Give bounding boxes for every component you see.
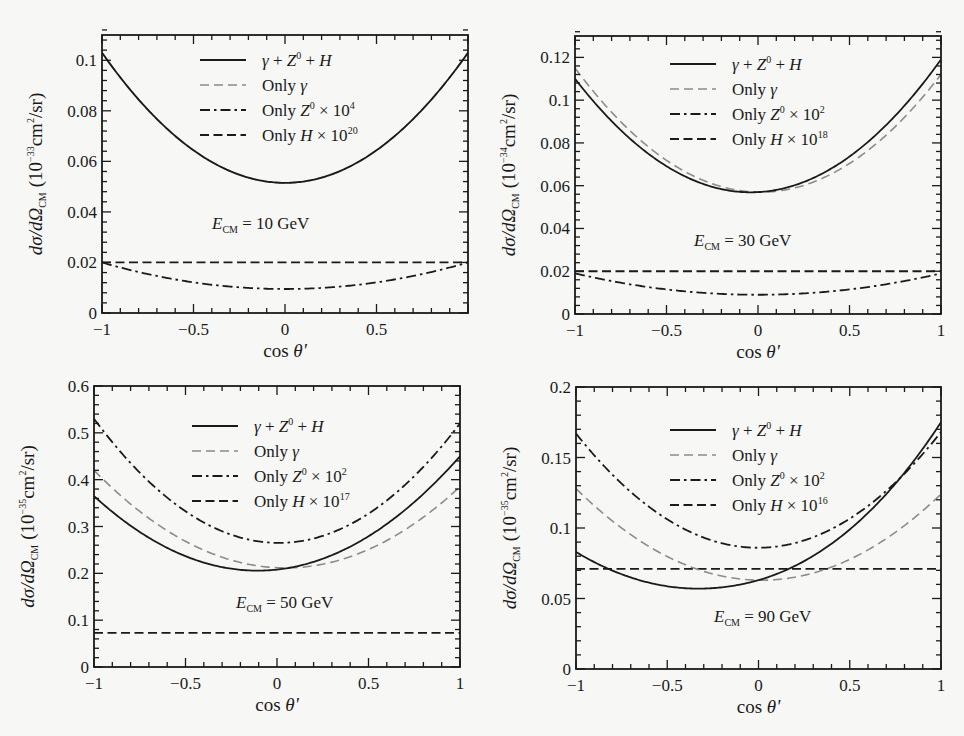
legend-label: Only H × 1017 bbox=[254, 491, 350, 511]
panel-50gev: −1−0.500.5100.10.20.30.40.50.6cos θ'dσ/d… bbox=[17, 377, 464, 715]
figure-canvas: −1−0.500.500.020.040.060.080.1cos θ'dσ/d… bbox=[0, 0, 964, 736]
legend-label: Only H × 1018 bbox=[732, 129, 828, 149]
x-tick-label: 0 bbox=[754, 321, 763, 340]
legend-label: Only H × 1020 bbox=[262, 125, 358, 145]
y-tick-label: 0.06 bbox=[540, 177, 570, 196]
x-tick-label: 0.5 bbox=[358, 674, 379, 693]
energy-annotation: ECM = 90 GeV bbox=[713, 607, 812, 628]
legend-label: Only γ bbox=[262, 76, 308, 95]
y-tick-label: 0 bbox=[81, 658, 90, 677]
legend-label: Only γ bbox=[732, 80, 778, 99]
legend: γ + Z0 + HOnly γOnly Z0 × 102Only H × 10… bbox=[670, 420, 828, 515]
y-tick-label: 0.04 bbox=[67, 203, 97, 222]
x-tick-label: −0.5 bbox=[178, 320, 209, 339]
y-tick-label: 0 bbox=[562, 305, 571, 324]
x-axis-title: cos θ' bbox=[255, 694, 299, 715]
legend-label: Only Z0 × 102 bbox=[254, 466, 347, 486]
y-tick-label: 0.3 bbox=[68, 518, 89, 537]
y-tick-label: 0.02 bbox=[540, 262, 570, 281]
legend-label: Only γ bbox=[732, 446, 778, 465]
panel-30gev: −1−0.500.5100.020.040.060.080.10.12cos θ… bbox=[498, 32, 945, 362]
y-tick-label: 0.08 bbox=[540, 134, 570, 153]
y-tick-label: 0.1 bbox=[549, 91, 570, 110]
y-tick-label: 0.08 bbox=[67, 102, 97, 121]
y-axis-title: dσ/dΩCM(10−34cm2/sr) bbox=[498, 94, 521, 256]
x-tick-label: −0.5 bbox=[651, 321, 682, 340]
y-tick-label: 0.04 bbox=[540, 219, 570, 238]
legend-label: γ + Z0 + H bbox=[262, 50, 333, 70]
legend-label: γ + Z0 + H bbox=[254, 416, 325, 436]
y-tick-label: 0.12 bbox=[540, 48, 570, 67]
panel-10gev: −1−0.500.500.020.040.060.080.1cos θ'dσ/d… bbox=[25, 30, 468, 361]
y-tick-label: 0.1 bbox=[550, 519, 571, 538]
series-line-dash-dot bbox=[102, 262, 468, 289]
legend-label: Only Z0 × 102 bbox=[732, 104, 825, 124]
y-tick-label: 0.6 bbox=[68, 377, 89, 396]
legend-label: γ + Z0 + H bbox=[732, 420, 803, 440]
legend: γ + Z0 + HOnly γOnly Z0 × 102Only H × 10… bbox=[670, 54, 828, 149]
y-axis-title: dσ/dΩCM(10−35cm2/sr) bbox=[17, 445, 40, 607]
y-axis-title: dσ/dΩCM(10−35cm2/sr) bbox=[499, 447, 522, 609]
energy-annotation: ECM = 30 GeV bbox=[693, 231, 792, 252]
panel-90gev: −1−0.500.5100.050.10.150.2cos θ'dσ/dΩCM(… bbox=[499, 378, 945, 717]
energy-annotation: ECM = 50 GeV bbox=[235, 593, 334, 614]
x-tick-label: 0.5 bbox=[839, 676, 860, 695]
axes-frame bbox=[575, 36, 941, 314]
y-tick-label: 0.1 bbox=[68, 611, 89, 630]
energy-annotation: ECM = 10 GeV bbox=[211, 214, 310, 235]
x-tick-label: −0.5 bbox=[652, 676, 683, 695]
x-tick-label: 0 bbox=[281, 320, 290, 339]
legend-label: Only H × 1016 bbox=[732, 495, 828, 515]
legend-label: Only Z0 × 102 bbox=[732, 470, 825, 490]
legend-label: Only γ bbox=[254, 442, 300, 461]
y-tick-label: 0.1 bbox=[76, 51, 97, 70]
x-tick-label: 0 bbox=[754, 676, 763, 695]
x-tick-label: 0.5 bbox=[839, 321, 860, 340]
y-tick-label: 0.02 bbox=[67, 253, 97, 272]
x-axis-title: cos θ' bbox=[737, 696, 781, 717]
x-tick-label: −0.5 bbox=[170, 674, 201, 693]
y-tick-label: 0.2 bbox=[550, 378, 571, 397]
legend: γ + Z0 + HOnly γOnly Z0 × 104Only H × 10… bbox=[200, 50, 358, 145]
y-tick-label: 0 bbox=[89, 304, 98, 323]
y-tick-label: 0 bbox=[563, 660, 572, 679]
x-tick-label: 0 bbox=[273, 674, 282, 693]
legend-label: Only Z0 × 104 bbox=[262, 100, 355, 120]
y-tick-label: 0.2 bbox=[68, 564, 89, 583]
y-tick-label: 0.5 bbox=[68, 424, 89, 443]
y-tick-label: 0.06 bbox=[67, 152, 97, 171]
x-tick-label: 1 bbox=[456, 674, 465, 693]
x-axis-title: cos θ' bbox=[263, 340, 307, 361]
y-tick-label: 0.15 bbox=[541, 449, 571, 468]
legend: γ + Z0 + HOnly γOnly Z0 × 102Only H × 10… bbox=[192, 416, 350, 511]
y-tick-label: 0.4 bbox=[68, 471, 90, 490]
x-tick-label: 1 bbox=[937, 321, 946, 340]
x-axis-title: cos θ' bbox=[736, 341, 780, 362]
series-line-dash-dot bbox=[575, 273, 941, 294]
y-axis-title: dσ/dΩCM(10−33cm2/sr) bbox=[25, 93, 48, 255]
x-tick-label: 1 bbox=[937, 676, 946, 695]
x-tick-label: 0.5 bbox=[366, 320, 387, 339]
y-tick-label: 0.05 bbox=[541, 590, 571, 609]
legend-label: γ + Z0 + H bbox=[732, 54, 803, 74]
